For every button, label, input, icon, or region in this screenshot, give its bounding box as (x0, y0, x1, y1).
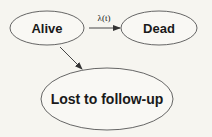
arrow-alive-to-lost (60, 47, 82, 69)
node-dead: Dead (121, 11, 197, 45)
node-dead-label: Dead (143, 21, 175, 36)
edge-alive-dead: λ(t) (89, 13, 120, 28)
diagram-canvas: Alive Dead Lost to follow-up λ(t) (0, 0, 212, 137)
edge-alive-lost (60, 47, 82, 69)
node-alive: Alive (10, 11, 84, 45)
node-lost-label: Lost to follow-up (51, 91, 164, 107)
node-lost: Lost to follow-up (41, 68, 173, 130)
node-alive-label: Alive (31, 21, 62, 36)
edge-label-hazard: λ(t) (98, 13, 111, 23)
diagram-svg: Alive Dead Lost to follow-up λ(t) (0, 0, 212, 137)
